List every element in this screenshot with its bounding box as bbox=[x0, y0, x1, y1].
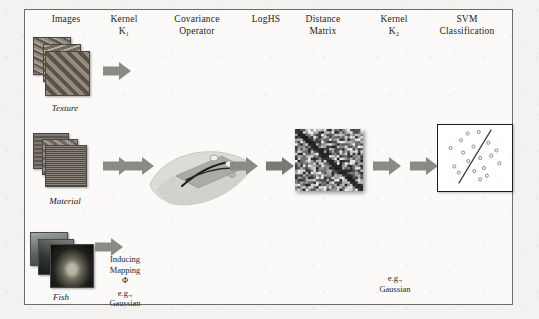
svm-data-point bbox=[482, 166, 485, 169]
column-title-loghs-line1: LogHS bbox=[245, 14, 287, 26]
svm-data-point bbox=[462, 151, 465, 154]
kernel1-note-line2: Mapping bbox=[98, 265, 152, 276]
thumbnail-fish-3 bbox=[50, 244, 94, 288]
column-title-images-line1: Images bbox=[30, 14, 102, 26]
svm-data-point bbox=[449, 146, 452, 149]
kernel1-note: Inducing Mapping Φ e.g., Gaussian bbox=[98, 254, 152, 309]
distance-matrix-image bbox=[295, 129, 363, 191]
column-title-kernel1: Kernel K₁ bbox=[96, 14, 152, 37]
row-caption-material: Material bbox=[26, 196, 104, 206]
thumbnail-texture-3 bbox=[45, 51, 90, 96]
column-title-kernel2-line2: K₂ bbox=[371, 26, 417, 38]
column-title-distance: Distance Matrix bbox=[292, 14, 354, 37]
column-title-covariance-line1: Covariance bbox=[155, 14, 239, 26]
pipeline-figure: Images Kernel K₁ Covariance Operator Log… bbox=[0, 0, 539, 319]
kernel2-note-line2: Gaussian bbox=[372, 284, 418, 295]
arrow-covariance-to-loghs bbox=[230, 157, 258, 175]
kernel1-note-line1: Inducing bbox=[98, 254, 152, 265]
column-title-distance-line1: Distance bbox=[292, 14, 354, 26]
arrow-distance-to-kernel2 bbox=[373, 157, 401, 175]
column-title-images: Images bbox=[30, 14, 102, 26]
column-title-covariance: Covariance Operator bbox=[155, 14, 239, 37]
image-stack-texture bbox=[33, 37, 103, 100]
kernel1-note-phi-symbol: Φ bbox=[98, 275, 152, 286]
svm-data-point bbox=[473, 169, 476, 172]
column-title-kernel1-line1: Kernel bbox=[96, 14, 152, 26]
svm-data-point bbox=[477, 130, 480, 133]
column-title-kernel1-line2: K₁ bbox=[96, 26, 152, 38]
arrow-texture-to-kernel1 bbox=[103, 62, 131, 80]
manifold-point-a bbox=[210, 155, 218, 161]
kernel1-note-line5: Gaussian bbox=[98, 298, 152, 309]
thumbnail-material-3 bbox=[45, 145, 87, 187]
svm-data-point bbox=[459, 139, 462, 142]
svm-data-point bbox=[457, 171, 460, 174]
column-title-svm-line2: Classification bbox=[425, 26, 509, 38]
column-title-loghs: LogHS bbox=[245, 14, 287, 26]
image-stack-material bbox=[33, 133, 103, 193]
arrow-kernel2-to-svm bbox=[410, 157, 438, 175]
svm-data-point bbox=[479, 156, 482, 159]
svm-data-point bbox=[466, 132, 469, 135]
kernel2-note: e.g., Gaussian bbox=[372, 273, 418, 294]
row-caption-fish: Fish bbox=[24, 292, 98, 302]
column-title-kernel2: Kernel K₂ bbox=[371, 14, 417, 37]
image-stack-fish bbox=[30, 232, 102, 294]
kernel1-note-line4: e.g., bbox=[98, 288, 152, 299]
column-title-kernel2-line1: Kernel bbox=[371, 14, 417, 26]
svm-data-point bbox=[479, 178, 482, 181]
svm-data-point bbox=[498, 162, 501, 165]
svm-data-point bbox=[490, 154, 493, 157]
svm-data-point bbox=[467, 159, 470, 162]
svm-data-point bbox=[453, 165, 456, 168]
column-title-svm: SVM Classification bbox=[425, 14, 509, 37]
svm-data-point bbox=[472, 145, 475, 148]
svm-data-point bbox=[485, 174, 488, 177]
column-title-covariance-line2: Operator bbox=[155, 26, 239, 38]
svm-data-point bbox=[495, 149, 498, 152]
svm-decision-boundary bbox=[459, 130, 492, 184]
arrow-loghs-to-distance bbox=[266, 157, 294, 175]
column-title-distance-line2: Matrix bbox=[292, 26, 354, 38]
svm-data-point bbox=[487, 141, 490, 144]
column-title-svm-line1: SVM bbox=[425, 14, 509, 26]
svm-classification-panel bbox=[437, 124, 513, 192]
kernel2-note-line1: e.g., bbox=[372, 273, 418, 284]
row-caption-texture: Texture bbox=[28, 103, 102, 113]
